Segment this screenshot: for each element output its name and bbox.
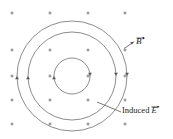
field-dot (49, 49, 52, 52)
arrowhead-inner-left (52, 76, 56, 79)
b-field-label: B (136, 37, 142, 46)
arrowhead-outer-left (15, 76, 19, 79)
field-dot (49, 75, 52, 78)
field-dot (49, 123, 52, 126)
field-dot (11, 75, 14, 78)
field-dot (124, 123, 127, 126)
field-dot (11, 12, 14, 15)
field-dot (87, 12, 90, 15)
induced-e-field-lines (17, 21, 127, 131)
field-dot (49, 99, 52, 102)
inner-field-line-circle (54, 58, 90, 94)
arrowhead-middle-left (26, 76, 30, 79)
b-field-leader (124, 42, 135, 49)
field-line-direction-arrowheads (15, 73, 129, 79)
field-dot (124, 12, 127, 15)
field-dot (124, 49, 127, 52)
b-symbol-text: B (136, 36, 142, 46)
field-dot (124, 99, 127, 102)
figure-canvas (0, 0, 173, 139)
e-vector-symbol: E (152, 106, 157, 115)
field-dot (11, 99, 14, 102)
physics-figure: B Induced E (0, 0, 173, 139)
field-dot (87, 75, 90, 78)
e-symbol-text: E (152, 105, 157, 115)
arrowhead-middle-right (114, 73, 118, 76)
field-dot (124, 75, 127, 78)
field-dot (49, 12, 52, 15)
induced-e-label: Induced E (122, 106, 157, 115)
middle-field-line-circle (28, 32, 116, 120)
field-dot (87, 123, 90, 126)
field-dot (11, 123, 14, 126)
magnetic-field-dot-grid (11, 12, 127, 126)
induced-e-prefix-text: Induced (122, 105, 152, 115)
b-vector-symbol: B (136, 37, 142, 46)
outer-field-line-circle (17, 21, 127, 131)
field-dot (87, 49, 90, 52)
field-dot (11, 49, 14, 52)
field-dot (87, 99, 90, 102)
